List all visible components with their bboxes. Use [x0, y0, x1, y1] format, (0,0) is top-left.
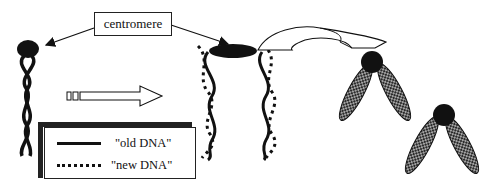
condensation-arrow [258, 27, 386, 50]
condensed-chromosome-1 [334, 51, 416, 124]
unreplicated-chromosome [17, 40, 39, 156]
centromere-label-text: centromere [104, 16, 162, 32]
solid-line-swatch [57, 142, 101, 145]
dotted-line-swatch [57, 164, 101, 167]
centromere-dot [433, 104, 455, 126]
legend-box: "old DNA" "new DNA" [44, 127, 196, 179]
legend-item-new-dna: "new DNA" [57, 158, 172, 173]
centromere-dot [17, 40, 39, 58]
condensed-chromosome-2 [400, 104, 484, 177]
centromere-dot [361, 51, 383, 73]
centromere-pointer-left [46, 28, 94, 45]
replication-diagram: centromere "old DNA" "new DNA" [0, 0, 504, 193]
legend-shadow [38, 122, 43, 178]
legend-label: "old DNA" [115, 136, 171, 151]
legend-label: "new DNA" [111, 158, 172, 173]
replicated-chromosome [198, 44, 275, 160]
centromere-label: centromere [94, 12, 172, 36]
centromere-ellipse [209, 44, 257, 58]
centromere-pointer-right [171, 25, 228, 44]
legend-item-old-dna: "old DNA" [57, 136, 171, 151]
progression-arrow [67, 86, 162, 106]
